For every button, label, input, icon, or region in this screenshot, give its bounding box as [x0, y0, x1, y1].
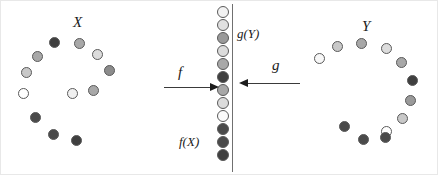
element-dot: [48, 129, 59, 140]
arrow-g-head-icon: [239, 79, 248, 87]
element-dot: [358, 134, 369, 145]
element-dot: [332, 41, 343, 52]
element-dot: [217, 6, 229, 18]
element-dot: [71, 135, 82, 146]
element-dot: [217, 149, 229, 161]
element-dot: [314, 53, 325, 64]
element-dot: [30, 112, 41, 123]
element-dot: [217, 71, 229, 83]
element-dot: [339, 121, 350, 132]
arrow-g-line: [248, 83, 300, 84]
element-dot: [92, 49, 103, 60]
element-dot: [407, 75, 418, 86]
element-dot: [381, 43, 392, 54]
element-dot: [21, 67, 32, 78]
element-dot: [356, 38, 367, 49]
element-dot: [217, 97, 229, 109]
function-mapping-diagram: X g(Y) f(X) f g Y: [0, 0, 438, 175]
label-map-g: g: [272, 58, 280, 73]
element-dot: [405, 95, 416, 106]
element-dot: [74, 38, 85, 49]
element-dot: [217, 123, 229, 135]
label-map-f: f: [178, 65, 182, 80]
element-dot: [217, 32, 229, 44]
label-g-of-y: g(Y): [237, 27, 259, 40]
element-dot: [397, 113, 408, 124]
label-f-of-x: f(X): [179, 135, 199, 148]
element-dot: [396, 57, 407, 68]
element-dot: [217, 58, 229, 70]
element-dot: [18, 88, 29, 99]
arrow-f-head-icon: [210, 83, 219, 91]
label-set-x: X: [73, 15, 82, 30]
element-dot: [67, 88, 78, 99]
element-dot: [217, 110, 229, 122]
element-dot: [380, 132, 391, 143]
element-dot: [32, 51, 43, 62]
middle-divider-line: [232, 4, 233, 172]
label-set-y: Y: [362, 19, 370, 34]
element-dot: [88, 85, 99, 96]
element-dot: [217, 19, 229, 31]
element-dot: [217, 136, 229, 148]
arrow-f-line: [164, 87, 210, 88]
element-dot: [104, 65, 115, 76]
element-dot: [217, 45, 229, 57]
element-dot: [49, 37, 60, 48]
